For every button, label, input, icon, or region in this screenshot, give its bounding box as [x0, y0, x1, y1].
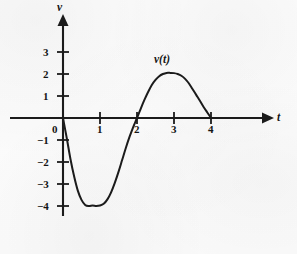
y-tick-label-1: 1 — [43, 91, 49, 102]
velocity-curve — [63, 73, 211, 206]
y-tick-label-minus-2: −2 — [37, 157, 49, 168]
y-tick-label-2: 2 — [43, 69, 49, 80]
origin-label: 0 — [52, 124, 58, 135]
x-tick-label-1: 1 — [97, 124, 103, 135]
y-tick-label-3: 3 — [43, 47, 49, 58]
v-axis-arrowhead — [58, 14, 69, 26]
y-tick-label-minus-1: −1 — [37, 135, 49, 146]
y-tick-label-minus-3: −3 — [37, 179, 49, 190]
x-tick-label-4: 4 — [208, 124, 214, 135]
x-tick-label-3: 3 — [171, 124, 177, 135]
plot-canvas — [0, 0, 297, 254]
x-tick-label-2: 2 — [134, 124, 140, 135]
t-axis-label: t — [277, 112, 280, 124]
v-axis-label: v — [57, 2, 62, 14]
y-tick-label-minus-4: −4 — [37, 201, 49, 212]
velocity-graph-figure: v t v(t) 0 1 2 3 4 3 2 1 −1 −2 −3 −4 — [0, 0, 297, 254]
curve-label: v(t) — [154, 54, 170, 66]
t-axis-arrowhead — [262, 113, 274, 124]
